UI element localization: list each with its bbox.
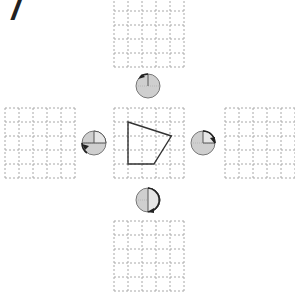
grid-top xyxy=(114,0,184,67)
grid-center xyxy=(114,108,184,178)
rotation-dial-top-icon xyxy=(136,74,160,98)
grid-right xyxy=(225,108,295,178)
rotation-dial-right-icon xyxy=(191,131,215,155)
grid-left xyxy=(5,108,75,178)
rotation-dial-bottom-icon xyxy=(136,188,160,213)
rotation-dial-left-icon xyxy=(82,131,106,155)
grid-bottom xyxy=(114,221,184,291)
diagram-canvas xyxy=(0,0,295,301)
quadrilateral-shape xyxy=(128,122,171,164)
